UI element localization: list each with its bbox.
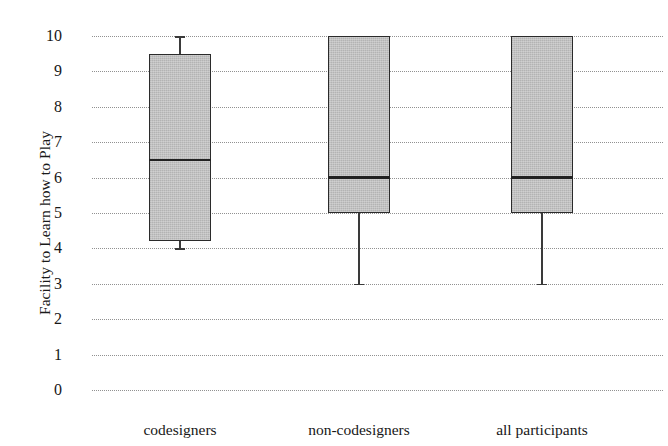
y-tick-label-3: 3 — [32, 276, 62, 292]
y-tick-label-1: 1 — [32, 347, 62, 363]
lower-whisker-2 — [541, 213, 542, 284]
y-tick-label-0: 0 — [32, 382, 62, 398]
x-category-label-1: non-codesigners — [308, 421, 410, 439]
x-category-label-0: codesigners — [143, 421, 216, 439]
box-codesigners — [149, 54, 211, 242]
box-texture — [329, 37, 389, 212]
y-tick-label-2: 2 — [32, 311, 62, 327]
x-category-label-2: all participants — [496, 421, 588, 439]
y-tick-label-10: 10 — [32, 28, 62, 44]
y-tick-label-8: 8 — [32, 99, 62, 115]
y-tick-label-5: 5 — [32, 205, 62, 221]
lower-whisker-cap-2 — [537, 284, 547, 286]
lower-whisker-1 — [358, 213, 359, 284]
gridline-3 — [92, 284, 663, 286]
box-texture — [150, 55, 210, 241]
upper-whisker-0 — [179, 36, 180, 54]
lower-whisker-cap-1 — [354, 284, 364, 286]
upper-whisker-cap-0 — [175, 36, 185, 38]
gridline-1 — [92, 355, 663, 357]
median-line-0 — [149, 159, 211, 161]
y-tick-label-7: 7 — [32, 134, 62, 150]
gridline-2 — [92, 319, 663, 321]
box-non-codesigners — [328, 36, 390, 213]
plot-area: 109876543210codesignersnon-codesignersal… — [0, 0, 668, 446]
median-line-1 — [328, 176, 390, 178]
gridline-0 — [92, 390, 663, 392]
median-line-2 — [511, 176, 573, 178]
box-all-participants — [511, 36, 573, 213]
y-tick-label-9: 9 — [32, 63, 62, 79]
y-tick-label-6: 6 — [32, 170, 62, 186]
box-texture — [512, 37, 572, 212]
y-tick-label-4: 4 — [32, 240, 62, 256]
lower-whisker-0 — [179, 241, 180, 248]
boxplot-figure: Facility to Learn how to Play 1098765432… — [0, 0, 668, 446]
lower-whisker-cap-0 — [175, 248, 185, 250]
